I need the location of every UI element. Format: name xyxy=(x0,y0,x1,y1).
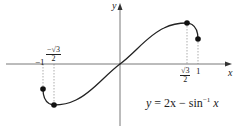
x-axis-arrow-icon xyxy=(225,62,232,67)
point-local-min xyxy=(51,102,57,108)
point-pos-one xyxy=(195,36,201,42)
x-axis-label: x xyxy=(228,68,232,78)
point-local-max xyxy=(184,20,190,26)
tick-neg-one: −1 xyxy=(35,58,45,67)
point-neg-one xyxy=(40,86,46,92)
y-axis-label: y xyxy=(112,1,116,11)
tick-pos-one: 1 xyxy=(196,67,201,76)
tick-sqrt3-over-2: √3 2 xyxy=(180,67,190,84)
y-axis-arrow-icon xyxy=(118,3,123,10)
equation-label: y = 2x − sin−1 x xyxy=(146,96,219,111)
tick-neg-sqrt3-over-2: −√3 2 xyxy=(46,46,61,63)
